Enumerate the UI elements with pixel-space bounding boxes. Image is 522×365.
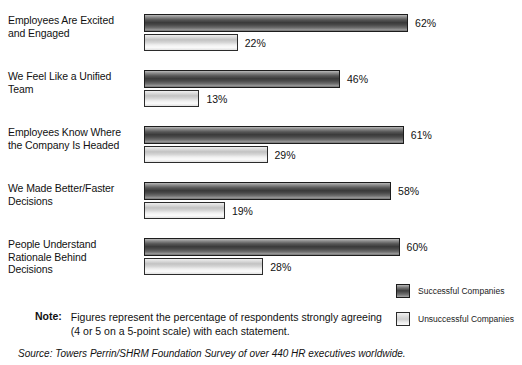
bar-chart: Employees Are Excitedand Engaged62%22%We… — [0, 0, 522, 365]
bar-dark — [144, 182, 391, 200]
category-label-line: Decisions — [8, 195, 53, 207]
bar-value-label: 62% — [408, 17, 436, 29]
bar-value-label: 28% — [263, 261, 291, 273]
category-label-line: and Engaged — [8, 27, 69, 39]
bar-dark — [144, 70, 340, 88]
category-label: We Made Better/FasterDecisions — [8, 182, 140, 207]
legend-label-successful: Successful Companies — [418, 286, 504, 296]
bar-light — [144, 202, 225, 219]
source-caption: Source: Towers Perrin/SHRM Foundation Su… — [18, 348, 406, 359]
category-label: Employees Know Wherethe Company Is Heade… — [8, 126, 140, 151]
note-body: Figures represent the percentage of resp… — [71, 310, 382, 338]
category-label-line: We Made Better/Faster — [8, 182, 114, 194]
category-label-line: People Understand — [8, 238, 96, 250]
category-label-line: We Feel Like a Unified — [8, 70, 111, 82]
category-label-line: Decisions — [8, 263, 53, 275]
bar-value-label: 13% — [199, 93, 227, 105]
chart-legend: Successful Companies Unsuccessful Compan… — [396, 282, 522, 338]
bar-value-label: 60% — [400, 241, 428, 253]
bar-light — [144, 258, 263, 275]
category-label: People UnderstandRationale BehindDecisio… — [8, 238, 140, 276]
bar-value-label: 19% — [225, 205, 253, 217]
bar-dark — [144, 126, 404, 144]
note-block: Note: Figures represent the percentage o… — [35, 310, 385, 338]
bar-dark — [144, 14, 408, 32]
bar-value-label: 22% — [238, 37, 266, 49]
bar-light — [144, 34, 238, 51]
note-line-2: (4 or 5 on a 5-point scale) with each st… — [71, 325, 290, 337]
legend-swatch-light-icon — [396, 312, 410, 326]
category-label: Employees Are Excitedand Engaged — [8, 14, 140, 39]
bar-value-label: 58% — [391, 185, 419, 197]
bar-value-label: 61% — [404, 129, 432, 141]
bar-light — [144, 146, 268, 163]
bar-value-label: 29% — [268, 149, 296, 161]
category-label-line: Employees Know Where — [8, 126, 121, 138]
category-label-line: Employees Are Excited — [8, 14, 114, 26]
category-label-line: the Company Is Headed — [8, 139, 119, 151]
category-label-line: Team — [8, 83, 33, 95]
bar-dark — [144, 238, 400, 256]
legend-item-successful: Successful Companies — [396, 282, 522, 300]
bar-light — [144, 90, 199, 107]
category-label: We Feel Like a UnifiedTeam — [8, 70, 140, 95]
legend-label-unsuccessful: Unsuccessful Companies — [418, 314, 514, 324]
note-line-1: Figures represent the percentage of resp… — [71, 311, 382, 323]
bar-value-label: 46% — [340, 73, 368, 85]
category-label-line: Rationale Behind — [8, 251, 86, 263]
legend-item-unsuccessful: Unsuccessful Companies — [396, 310, 522, 328]
note-label: Note: — [35, 310, 71, 338]
legend-swatch-dark-icon — [396, 284, 410, 298]
